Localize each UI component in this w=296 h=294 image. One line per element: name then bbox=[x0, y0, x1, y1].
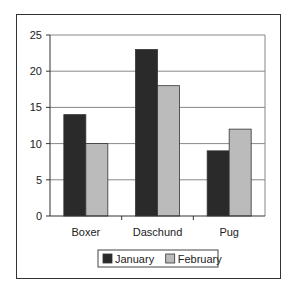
legend-swatch bbox=[103, 254, 112, 263]
legend-swatch bbox=[166, 254, 175, 263]
bar-january bbox=[64, 115, 86, 216]
y-tick-label: 10 bbox=[30, 138, 42, 150]
bar-february bbox=[158, 86, 180, 216]
bar-january bbox=[136, 49, 158, 216]
y-tick-label: 25 bbox=[30, 29, 42, 41]
bar-february bbox=[86, 144, 108, 216]
legend-label: January bbox=[115, 253, 155, 265]
bar-chart: 0510152025BoxerDaschundPugJanuaryFebruar… bbox=[0, 0, 296, 294]
y-tick-label: 15 bbox=[30, 101, 42, 113]
x-tick-label: Pug bbox=[219, 226, 239, 238]
x-tick-label: Daschund bbox=[133, 226, 183, 238]
y-tick-label: 0 bbox=[36, 210, 42, 222]
x-tick-label: Boxer bbox=[71, 226, 100, 238]
y-tick-label: 5 bbox=[36, 174, 42, 186]
legend-label: February bbox=[178, 253, 223, 265]
bar-january bbox=[207, 151, 229, 216]
y-tick-label: 20 bbox=[30, 65, 42, 77]
bar-february bbox=[229, 129, 251, 216]
